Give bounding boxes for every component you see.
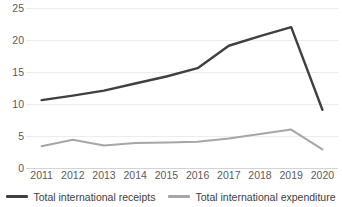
y-axis-tick-label: 10 xyxy=(2,99,24,109)
series-lines xyxy=(26,8,338,168)
x-axis-tick-label: 2012 xyxy=(58,169,88,181)
legend-label: Total international receipts xyxy=(33,191,155,203)
chart-title-cutoff xyxy=(26,0,326,2)
x-axis-tick-label: 2011 xyxy=(27,169,57,181)
x-axis-tick-label: 2013 xyxy=(89,169,119,181)
legend-label: Total international expenditure xyxy=(195,191,335,203)
line-chart: 0510152025 20112012201320142015201620172… xyxy=(0,0,342,207)
y-axis-tick-label: 5 xyxy=(2,131,24,141)
legend-swatch-icon xyxy=(6,195,28,198)
x-axis-tick-label: 2019 xyxy=(276,169,306,181)
x-axis-tick-label: 2018 xyxy=(245,169,275,181)
y-axis-tick-label: 20 xyxy=(2,35,24,45)
x-axis: 2011201220132014201520162017201820192020 xyxy=(26,169,338,183)
y-axis: 0510152025 xyxy=(0,8,24,168)
y-axis-tick-label: 25 xyxy=(2,3,24,13)
plot-area xyxy=(26,8,338,168)
x-axis-tick-label: 2014 xyxy=(120,169,150,181)
y-axis-tick-label: 15 xyxy=(2,67,24,77)
x-axis-tick-label: 2015 xyxy=(151,169,181,181)
legend-item[interactable]: Total international expenditure xyxy=(168,191,335,203)
chart-legend: Total international receiptsTotal intern… xyxy=(0,188,342,205)
legend-item[interactable]: Total international receipts xyxy=(6,191,155,203)
series-line xyxy=(42,27,323,110)
x-axis-tick-label: 2016 xyxy=(183,169,213,181)
legend-swatch-icon xyxy=(168,195,190,198)
series-line xyxy=(42,130,323,150)
x-axis-tick-label: 2017 xyxy=(214,169,244,181)
y-axis-tick-label: 0 xyxy=(2,163,24,173)
x-axis-tick-label: 2020 xyxy=(307,169,337,181)
